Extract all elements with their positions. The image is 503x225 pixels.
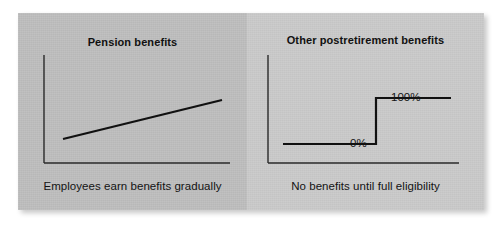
- panel-pension-benefits: Pension benefits Employees earn benefits…: [18, 13, 247, 210]
- data-label-hundred-percent: 100%: [391, 91, 420, 103]
- chart-title-other-postretirement-benefits: Other postretirement benefits: [247, 34, 484, 46]
- data-line-cliff-vesting: [283, 98, 451, 144]
- chart-caption-pension-benefits: Employees earn benefits gradually: [18, 180, 247, 192]
- chart-title-pension-benefits: Pension benefits: [18, 36, 247, 48]
- panel-other-postretirement-benefits: Other postretirement benefits 0% 100% No…: [247, 13, 484, 210]
- figure-container: Pension benefits Employees earn benefits…: [18, 13, 484, 210]
- chart-caption-other-postretirement-benefits: No benefits until full eligibility: [247, 180, 484, 192]
- data-line-gradual-accrual: [63, 100, 222, 139]
- data-label-zero-percent: 0%: [350, 137, 367, 149]
